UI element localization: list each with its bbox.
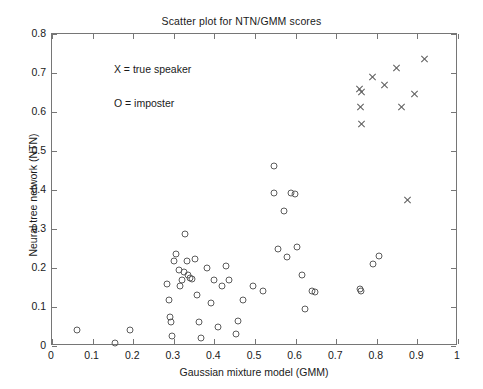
x-tick (377, 339, 378, 344)
data-point-o (173, 250, 180, 257)
data-point-o (204, 265, 211, 272)
data-point-o (208, 300, 215, 307)
x-tick (133, 339, 134, 344)
y-tick (52, 229, 57, 230)
x-tick-label: 0.1 (84, 349, 99, 361)
data-point-x (380, 81, 389, 90)
y-tick-label: 0.3 (31, 222, 46, 234)
x-tick-label: 0.3 (165, 349, 180, 361)
y-tick-right (451, 151, 456, 152)
data-point-x (397, 102, 406, 111)
legend-imposter: O = imposter (114, 97, 174, 109)
data-point-o (218, 282, 225, 289)
data-point-x (357, 88, 366, 97)
data-point-o (369, 261, 376, 268)
data-point-x (420, 54, 429, 63)
x-tick-label: 0 (48, 349, 54, 361)
data-point-o (283, 254, 290, 261)
data-point-x (403, 195, 412, 204)
x-tick-top (377, 34, 378, 39)
data-point-o (194, 291, 201, 298)
data-point-o (127, 327, 134, 334)
x-tick-top (296, 34, 297, 39)
data-point-o (260, 287, 267, 294)
data-point-o (214, 324, 221, 331)
x-tick-label: 0.7 (328, 349, 343, 361)
page-title: Scatter plot for NTN/GMM scores (0, 15, 483, 27)
data-point-o (211, 276, 218, 283)
data-point-o (358, 287, 365, 294)
y-tick-right (451, 346, 456, 347)
y-tick-label: 0.4 (31, 183, 46, 195)
x-tick-label: 1 (454, 349, 460, 361)
x-tick (214, 339, 215, 344)
x-tick-top (214, 34, 215, 39)
data-point-o (182, 230, 189, 237)
data-point-o (165, 296, 172, 303)
y-tick (52, 73, 57, 74)
x-tick (336, 339, 337, 344)
data-point-o (222, 263, 229, 270)
x-tick-top (336, 34, 337, 39)
data-point-o (189, 275, 196, 282)
y-tick (52, 268, 57, 269)
y-tick-label: 0.8 (31, 27, 46, 39)
x-tick-label: 0.8 (368, 349, 383, 361)
y-tick-right (451, 229, 456, 230)
y-tick-label: 0.5 (31, 144, 46, 156)
x-axis-label: Gaussian mixture model (GMM) (51, 366, 457, 378)
data-point-o (239, 296, 246, 303)
data-point-x (392, 63, 401, 72)
x-tick (174, 339, 175, 344)
x-tick-top (255, 34, 256, 39)
data-point-o (281, 208, 288, 215)
data-point-o (291, 190, 298, 197)
data-point-o (163, 280, 170, 287)
data-point-o (250, 282, 257, 289)
x-tick-top (133, 34, 134, 39)
data-point-x (368, 72, 377, 81)
plot-axes (51, 33, 457, 345)
x-tick (255, 339, 256, 344)
x-tick-top (458, 34, 459, 39)
data-point-o (170, 257, 177, 264)
x-tick-label: 0.6 (287, 349, 302, 361)
data-point-o (232, 331, 239, 338)
x-tick-top (174, 34, 175, 39)
y-tick (52, 346, 57, 347)
x-tick-label: 0.9 (409, 349, 424, 361)
data-point-o (226, 277, 233, 284)
data-point-o (271, 190, 278, 197)
y-tick-right (451, 112, 456, 113)
y-tick-label: 0.7 (31, 66, 46, 78)
y-tick-right (451, 73, 456, 74)
y-tick-right (451, 268, 456, 269)
x-tick-label: 0.2 (125, 349, 140, 361)
legend-true-speaker: X = true speaker (114, 63, 191, 75)
y-tick-label: 0.6 (31, 105, 46, 117)
y-tick-label: 0.2 (31, 261, 46, 273)
data-point-o (74, 327, 81, 334)
x-tick-label: 0.4 (206, 349, 221, 361)
y-tick (52, 112, 57, 113)
x-tick (458, 339, 459, 344)
data-point-o (274, 246, 281, 253)
y-tick-right (451, 307, 456, 308)
y-tick-right (451, 34, 456, 35)
x-tick-label: 0.5 (247, 349, 262, 361)
data-point-o (167, 318, 174, 325)
data-point-x (410, 90, 419, 99)
data-point-x (356, 102, 365, 111)
x-tick (417, 339, 418, 344)
data-point-o (375, 252, 382, 259)
data-point-o (196, 318, 203, 325)
data-point-o (234, 317, 241, 324)
y-tick-right (451, 190, 456, 191)
data-point-o (178, 277, 185, 284)
x-tick-top (417, 34, 418, 39)
data-point-o (270, 162, 277, 169)
data-point-o (191, 256, 198, 263)
data-point-o (111, 339, 118, 346)
x-tick (93, 339, 94, 344)
x-tick (52, 339, 53, 344)
